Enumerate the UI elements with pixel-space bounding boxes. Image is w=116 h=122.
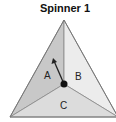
pivot-dot bbox=[61, 81, 68, 88]
label-a: A bbox=[44, 70, 51, 81]
spinner-diagram: A B C bbox=[0, 0, 116, 122]
label-b: B bbox=[75, 71, 82, 82]
label-c: C bbox=[60, 100, 67, 111]
